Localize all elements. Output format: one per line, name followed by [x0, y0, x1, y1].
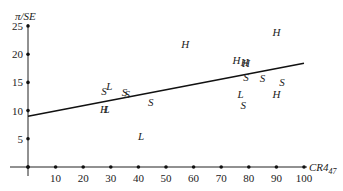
point-marker-H: H: [241, 57, 251, 69]
x-tick-dot: [275, 165, 279, 169]
x-tick-label: 70: [216, 172, 228, 184]
point-marker-L: L: [236, 88, 243, 100]
x-axis-ticks: 102030405060708090100: [26, 165, 313, 184]
x-axis-title-main: CR4: [309, 161, 329, 173]
x-tick-label: 100: [296, 172, 313, 184]
x-axis-title: CR447: [309, 161, 338, 176]
x-tick-label: 40: [133, 172, 145, 184]
point-marker-L: L: [137, 130, 144, 142]
x-tick-dot: [81, 165, 85, 169]
point-marker-L: L: [103, 103, 110, 115]
x-tick-label: 90: [271, 172, 283, 184]
x-tick-dot: [302, 165, 306, 169]
y-axis-ticks: 510152025: [12, 20, 30, 169]
y-axis-title: π/SE: [15, 10, 36, 22]
point-marker-S: S: [148, 96, 154, 108]
point-marker-S: S: [243, 71, 249, 83]
y-tick-dot: [26, 137, 30, 141]
x-tick-dot: [164, 165, 168, 169]
x-tick-label: 30: [105, 172, 117, 184]
point-marker-S: S: [260, 72, 266, 84]
point-marker-H: H: [180, 38, 190, 50]
x-tick-label: 80: [243, 172, 255, 184]
point-marker-S: S: [241, 99, 247, 111]
x-tick-label: 50: [161, 172, 173, 184]
x-tick-dot: [247, 165, 251, 169]
x-tick-dot: [192, 165, 196, 169]
point-marker-L: L: [105, 80, 112, 92]
x-tick-dot: [54, 165, 58, 169]
scatter-chart: 510152025 102030405060708090100 π/SE CR4…: [0, 0, 343, 191]
y-tick-label: 20: [12, 48, 24, 60]
data-points: SLHLSSSLHHHHSSSHHLS: [99, 26, 285, 142]
y-tick-label: 15: [12, 76, 24, 88]
x-tick-label: 10: [50, 172, 62, 184]
x-tick-dot: [109, 165, 113, 169]
x-tick-dot: [219, 165, 223, 169]
point-marker-S: S: [279, 76, 285, 88]
x-tick-dot: [137, 165, 141, 169]
x-tick-label: 20: [78, 172, 90, 184]
y-tick-dot: [26, 52, 30, 56]
y-tick-dot: [26, 24, 30, 28]
point-marker-H: H: [271, 26, 281, 38]
y-tick-dot: [26, 81, 30, 85]
point-marker-S: S: [125, 88, 131, 100]
x-tick-label: 60: [188, 172, 200, 184]
x-tick-dot: [26, 165, 30, 169]
y-tick-label: 10: [12, 105, 24, 117]
y-tick-dot: [26, 109, 30, 113]
y-tick-label: 5: [18, 133, 24, 145]
point-marker-H: H: [271, 88, 281, 100]
x-axis-title-sub: 47: [329, 167, 338, 176]
